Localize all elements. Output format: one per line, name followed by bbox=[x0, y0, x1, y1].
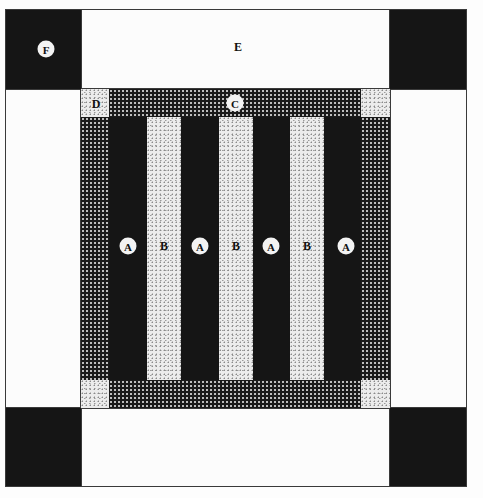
side-panel-right bbox=[390, 89, 466, 408]
corner-block-bottom-right bbox=[390, 408, 466, 486]
label-a-3: A bbox=[263, 238, 280, 255]
label-a-2: A bbox=[192, 238, 209, 255]
label-b-1: B bbox=[160, 239, 168, 254]
cornerstone-bottom-left bbox=[81, 380, 109, 408]
label-b-3: B bbox=[303, 239, 311, 254]
label-d: D bbox=[92, 97, 101, 112]
label-e: E bbox=[234, 40, 242, 55]
cornerstone-top-right bbox=[361, 89, 390, 117]
label-b-2: B bbox=[232, 239, 240, 254]
cornerstone-bottom-right bbox=[361, 380, 390, 408]
label-a-1: A bbox=[120, 238, 137, 255]
side-panel-left bbox=[6, 89, 81, 408]
border-band-left bbox=[81, 117, 109, 380]
label-c: C bbox=[227, 95, 244, 112]
border-band-right bbox=[361, 117, 390, 380]
corner-block-bottom-left bbox=[6, 408, 81, 486]
label-a-4: A bbox=[338, 238, 355, 255]
border-band-bottom bbox=[109, 380, 361, 408]
label-f: F bbox=[38, 41, 55, 58]
side-panel-bottom bbox=[81, 408, 390, 486]
corner-block-top-right bbox=[390, 10, 466, 89]
